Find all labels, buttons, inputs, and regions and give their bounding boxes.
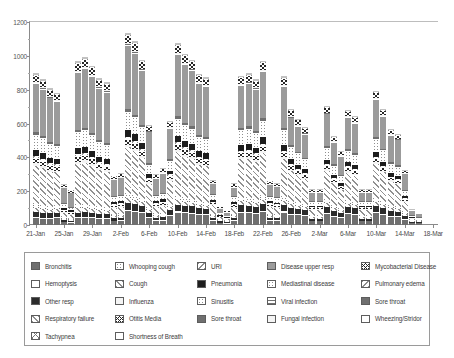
bar-segment — [267, 197, 273, 202]
bar-stack[interactable] — [40, 78, 46, 225]
bar-stack[interactable] — [267, 180, 273, 225]
bar-stack[interactable] — [217, 206, 223, 225]
legend-item[interactable]: Sinusitis — [197, 294, 234, 308]
bar-segment — [238, 153, 244, 157]
bar-segment — [146, 210, 152, 213]
legend-item[interactable]: Respiratory failure — [31, 312, 94, 326]
legend-item[interactable]: Other resp — [31, 294, 74, 308]
bar-stack[interactable] — [395, 134, 401, 225]
bar-stack[interactable] — [175, 41, 181, 225]
bar-segment — [167, 206, 173, 208]
bar-segment — [380, 166, 386, 167]
legend-item[interactable]: Pneumonia — [197, 277, 242, 291]
bar-stack[interactable] — [167, 120, 173, 225]
bar-stack[interactable] — [75, 60, 81, 225]
bar-stack[interactable] — [189, 58, 195, 225]
bar-stack[interactable] — [61, 184, 67, 225]
legend-item[interactable]: Influenza — [115, 294, 154, 308]
bar-stack[interactable] — [196, 73, 202, 225]
legend-item[interactable]: Sore throat — [361, 294, 405, 308]
legend-item[interactable]: Whooping cough — [115, 259, 175, 273]
bar-stack[interactable] — [373, 90, 379, 225]
legend-item[interactable]: Wheezing/Stridor — [361, 312, 422, 326]
legend-item[interactable]: Cough — [115, 277, 147, 291]
legend-item[interactable]: Tachypnea — [31, 329, 75, 343]
bar-stack[interactable] — [246, 72, 252, 225]
bar-stack[interactable] — [409, 209, 415, 225]
legend-item[interactable]: Viral infection — [267, 294, 317, 308]
bar-segment — [395, 216, 401, 217]
bar-segment — [167, 159, 173, 161]
bar-segment — [203, 159, 209, 160]
bar-stack[interactable] — [260, 59, 266, 225]
bar-stack[interactable] — [380, 108, 386, 225]
bar-stack[interactable] — [153, 173, 159, 225]
legend-item[interactable]: Pulmonary edema — [361, 277, 425, 291]
bar-stack[interactable] — [388, 129, 394, 225]
bar-stack[interactable] — [345, 109, 351, 225]
bar-stack[interactable] — [402, 169, 408, 225]
bar-stack[interactable] — [288, 108, 294, 225]
bar-segment — [380, 108, 386, 109]
bar-stack[interactable] — [182, 52, 188, 225]
bar-stack[interactable] — [139, 58, 145, 225]
legend-item[interactable]: Sore throat — [197, 312, 241, 326]
bar-segment — [82, 130, 88, 146]
bar-segment — [345, 168, 351, 171]
legend-item[interactable]: Otitis Media — [115, 312, 161, 326]
bar-segment — [61, 218, 67, 219]
bar-stack[interactable] — [253, 78, 259, 225]
bar-segment — [416, 222, 422, 223]
bar-stack[interactable] — [231, 183, 237, 225]
legend-item[interactable]: Bronchitis — [31, 259, 72, 273]
bar-segment — [189, 201, 195, 203]
bar-segment — [40, 218, 46, 219]
bar-segment — [203, 153, 209, 158]
bar-stack[interactable] — [160, 167, 166, 225]
bar-stack[interactable] — [111, 175, 117, 225]
legend-item[interactable]: Fungal infection — [267, 312, 324, 326]
bar-stack[interactable] — [54, 91, 60, 225]
bar-stack[interactable] — [89, 64, 95, 225]
bar-stack[interactable] — [324, 105, 330, 225]
bar-stack[interactable] — [281, 75, 287, 225]
bar-stack[interactable] — [68, 189, 74, 225]
bar-segment — [104, 81, 110, 82]
bar-stack[interactable] — [352, 115, 358, 225]
bar-segment — [160, 167, 166, 168]
bar-stack[interactable] — [366, 189, 372, 225]
bar-stack[interactable] — [203, 76, 209, 225]
bar-stack[interactable] — [118, 173, 124, 225]
bar-stack[interactable] — [125, 31, 131, 225]
bar-stack[interactable] — [317, 189, 323, 225]
bar-stack[interactable] — [33, 72, 39, 225]
bar-stack[interactable] — [238, 74, 244, 225]
bar-stack[interactable] — [274, 183, 280, 225]
legend-item[interactable]: URI — [197, 259, 222, 273]
bar-stack[interactable] — [146, 124, 152, 225]
bar-segment — [104, 214, 110, 218]
legend-item[interactable]: Hemoptysis — [31, 277, 77, 291]
legend-item[interactable]: Mediastinal disease — [267, 277, 334, 291]
bar-segment — [96, 88, 102, 89]
bar-stack[interactable] — [47, 87, 53, 225]
bar-stack[interactable] — [82, 56, 88, 225]
bar-stack[interactable] — [309, 189, 315, 225]
bar-stack[interactable] — [224, 211, 230, 225]
bar-stack[interactable] — [132, 40, 138, 225]
legend-item[interactable]: Mycobacterial Disease — [361, 259, 436, 273]
bar-stack[interactable] — [96, 77, 102, 225]
bar-stack[interactable] — [302, 126, 308, 225]
legend-item[interactable]: Shortness of Breath — [115, 329, 183, 343]
bar-segment — [309, 210, 315, 216]
bar-stack[interactable] — [331, 135, 337, 225]
x-axis-tick-mark — [92, 225, 93, 228]
bar-segment — [203, 166, 209, 203]
bar-stack[interactable] — [210, 179, 216, 225]
bar-stack[interactable] — [416, 212, 422, 225]
bar-stack[interactable] — [359, 189, 365, 225]
bar-stack[interactable] — [295, 118, 301, 225]
bar-stack[interactable] — [104, 81, 110, 225]
legend-item[interactable]: Disease upper resp — [267, 259, 334, 273]
bar-stack[interactable] — [338, 151, 344, 225]
